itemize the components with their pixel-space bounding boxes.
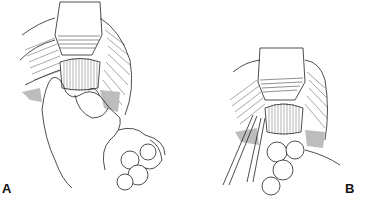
panel-label-a: A	[2, 182, 11, 195]
illustration-a	[0, 0, 185, 207]
panel-a: A	[0, 0, 185, 207]
panel-b: B	[185, 0, 370, 207]
panel-label-b: B	[345, 182, 354, 195]
illustration-b	[185, 0, 370, 207]
